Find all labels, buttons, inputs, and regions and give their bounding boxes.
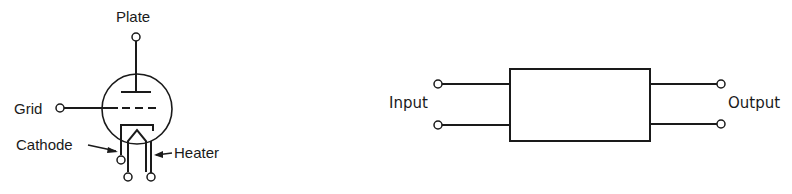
input-label: Input (389, 94, 428, 112)
cathode-label: Cathode (16, 136, 73, 153)
two-port-block-diagram: Input Output (389, 69, 780, 141)
output-terminal-top-icon (717, 80, 725, 88)
heater-label: Heater (174, 144, 219, 161)
output-terminal-bottom-icon (717, 120, 725, 128)
heater-filament (128, 130, 146, 172)
grid-label: Grid (14, 100, 42, 117)
arrow-right-icon (107, 147, 118, 153)
plate-terminal-icon (132, 33, 140, 41)
plate-label: Plate (116, 8, 150, 25)
arrow-left-icon (154, 151, 163, 158)
heater-terminal-icon (147, 173, 155, 181)
output-label: Output (728, 94, 780, 112)
triode-tube-symbol: Plate Grid Cathode Heater (14, 8, 219, 181)
cathode-terminal-icon (117, 156, 125, 164)
network-block (510, 69, 650, 141)
input-terminal-top-icon (434, 80, 442, 88)
grid-terminal-icon (56, 104, 64, 112)
diagram-canvas: Plate Grid Cathode Heater Input (0, 0, 792, 194)
input-terminal-bottom-icon (434, 121, 442, 129)
heater-terminal-icon (124, 173, 132, 181)
